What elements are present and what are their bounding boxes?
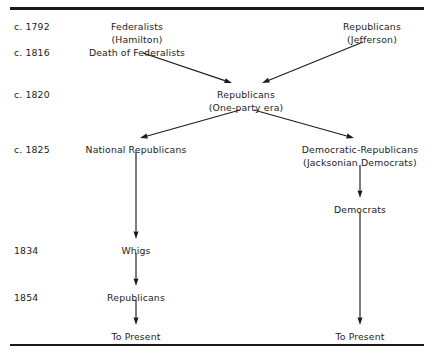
arrow-republicans-to-national-shaft xyxy=(147,110,240,136)
node-national-republicans: National Republicans xyxy=(86,145,187,154)
node-death-of-federalists: Death of Federalists xyxy=(89,48,185,57)
arrow-jacksonian-to-democrats-head xyxy=(358,191,363,199)
top-horizontal-rule xyxy=(10,7,424,10)
node-democrats: Democrats xyxy=(334,205,386,214)
arrow-layer xyxy=(0,0,434,353)
arrow-democrats-to-present-head xyxy=(358,318,363,326)
date-1854: 1854 xyxy=(14,293,38,302)
party-evolution-diagram: c. 1792c. 1816c. 1820c. 182518341854 Fed… xyxy=(0,0,434,353)
date-1825: c. 1825 xyxy=(14,145,50,154)
arrow-jefferson-to-republicans-shaft xyxy=(269,42,363,80)
node-jefferson: (Jefferson) xyxy=(347,35,397,44)
node-to-present-right: To Present xyxy=(335,332,384,341)
date-1820: c. 1820 xyxy=(14,90,50,99)
node-hamilton: (Hamilton) xyxy=(112,35,163,44)
arrow-republicans-to-democratic-head xyxy=(346,134,354,139)
node-jacksonian-democrats: (Jacksonian Democrats) xyxy=(303,158,417,167)
date-1834: 1834 xyxy=(14,246,38,255)
node-to-present-left: To Present xyxy=(111,332,160,341)
arrow-national-to-whigs-head xyxy=(134,232,139,240)
node-republicans-1854: Republicans xyxy=(107,293,165,302)
node-one-party-era: (One-party era) xyxy=(209,103,284,112)
node-republicans-jefferson: Republicans xyxy=(343,22,401,31)
arrow-federalists-to-republicans-head xyxy=(224,78,232,83)
bottom-horizontal-rule xyxy=(10,344,424,346)
node-republicans-one-party: Republicans xyxy=(217,90,275,99)
arrow-republicans-to-present-head xyxy=(134,318,139,326)
date-1792: c. 1792 xyxy=(14,22,50,31)
node-democratic-republicans: Democratic-Republicans xyxy=(302,145,418,154)
arrow-republicans-to-national-head xyxy=(140,134,148,139)
date-1816: c. 1816 xyxy=(14,48,50,57)
node-federalists: Federalists xyxy=(111,22,163,31)
node-whigs: Whigs xyxy=(121,246,150,255)
arrow-jefferson-to-republicans-head xyxy=(262,78,270,83)
arrow-republicans-to-democratic-shaft xyxy=(254,110,347,136)
arrow-whigs-to-republicans-head xyxy=(134,279,139,287)
